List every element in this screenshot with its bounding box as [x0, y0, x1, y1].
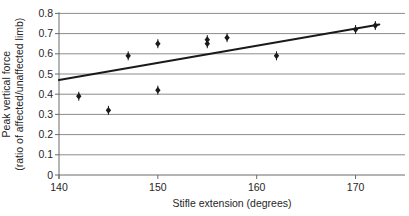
- x-tick-label: 140: [50, 181, 68, 193]
- x-tick-label: 160: [248, 181, 266, 193]
- y-axis-title-line1: Peak vertical force: [0, 51, 12, 138]
- data-point: [155, 87, 160, 94]
- data-point: [155, 40, 160, 47]
- data-point: [373, 22, 378, 29]
- scatter-plot: 00.10.20.30.40.50.60.70.8140150160170Sti…: [0, 0, 409, 216]
- x-axis-title: Stifle extension (degrees): [172, 197, 291, 209]
- x-tick-label: 150: [149, 181, 167, 193]
- y-tick-label: 0: [47, 169, 53, 181]
- trend-line: [59, 25, 379, 81]
- y-axis-title-line2: (ratio of affected/unaffected limb): [13, 18, 25, 171]
- scatter-chart-figure: 00.10.20.30.40.50.60.70.8140150160170Sti…: [0, 0, 409, 216]
- y-tick-label: 0.1: [38, 148, 53, 160]
- y-tick-label: 0.5: [38, 68, 53, 80]
- y-tick-label: 0.7: [38, 27, 53, 39]
- y-tick-label: 0.3: [38, 108, 53, 120]
- y-tick-label: 0.8: [38, 7, 53, 19]
- y-tick-label: 0.4: [38, 88, 53, 100]
- x-tick-label: 170: [347, 181, 365, 193]
- data-point: [106, 107, 111, 114]
- y-tick-label: 0.6: [38, 47, 53, 59]
- y-tick-label: 0.2: [38, 128, 53, 140]
- data-point: [353, 26, 358, 33]
- data-point: [205, 40, 210, 47]
- data-point: [224, 34, 229, 41]
